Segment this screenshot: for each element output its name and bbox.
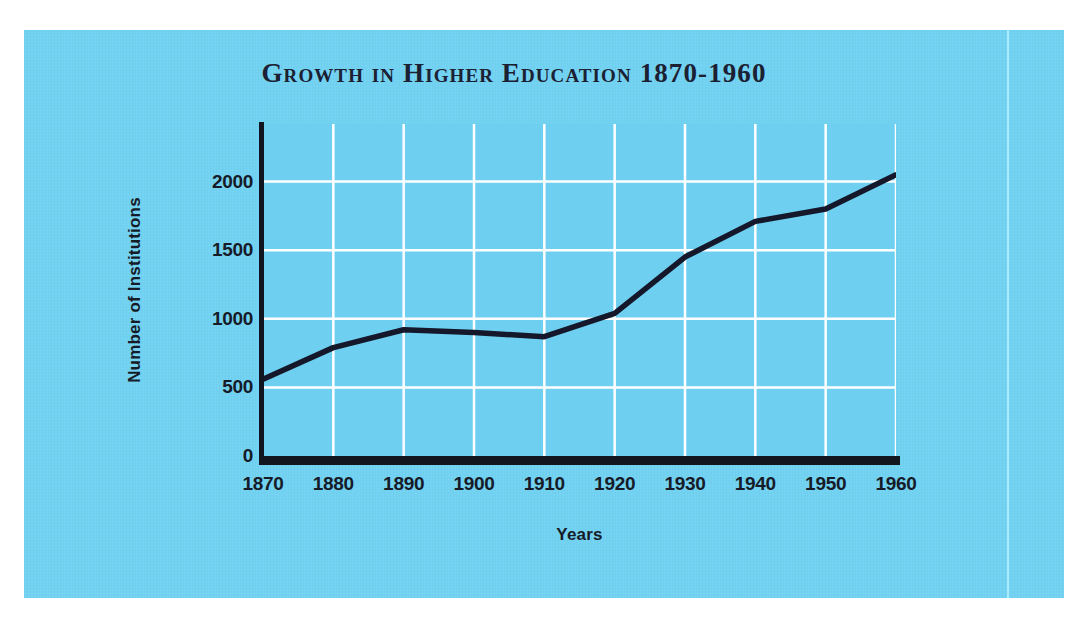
x-tick-label: 1910 <box>507 473 581 495</box>
x-tick-label: 1870 <box>226 473 300 495</box>
chart-title: Growth in Higher Education 1870-1960 <box>24 58 1004 89</box>
x-tick-label: 1960 <box>859 473 933 495</box>
data-series-line <box>263 175 896 379</box>
vertical-gridlines <box>333 124 896 456</box>
x-tick-label: 1880 <box>296 473 370 495</box>
figure-panel: Growth in Higher Education 1870-1960 Num… <box>24 30 1064 598</box>
y-tick-label: 1500 <box>179 239 253 261</box>
x-tick-label: 1920 <box>578 473 652 495</box>
x-tick-label: 1950 <box>789 473 863 495</box>
panel-divider-rule <box>1007 30 1009 598</box>
y-tick-label: 2000 <box>179 171 253 193</box>
y-tick-label: 1000 <box>179 308 253 330</box>
y-tick-label: 0 <box>179 445 253 467</box>
y-axis-tick-labels: 0500100015002000 <box>169 124 253 456</box>
y-axis-title: Number of Institutions <box>125 197 145 383</box>
x-axis-tick-labels: 1870188018901900191019201930194019501960 <box>263 473 896 501</box>
x-axis-title: Years <box>263 525 896 545</box>
x-tick-label: 1930 <box>648 473 722 495</box>
x-tick-label: 1940 <box>718 473 792 495</box>
plot-area <box>263 124 896 456</box>
x-axis-bar <box>259 456 900 465</box>
line-chart-svg <box>263 124 896 456</box>
x-tick-label: 1890 <box>367 473 441 495</box>
y-tick-label: 500 <box>179 376 253 398</box>
y-axis-spine <box>259 122 264 458</box>
x-tick-label: 1900 <box>437 473 511 495</box>
